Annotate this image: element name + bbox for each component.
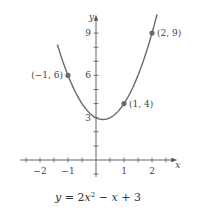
y-axis-label: y	[88, 12, 95, 22]
data-point	[149, 30, 154, 35]
x-tick-label: −1	[61, 166, 74, 176]
data-point-label: (−1, 6)	[31, 70, 63, 80]
data-point	[121, 101, 126, 106]
data-point	[65, 73, 70, 78]
y-tick-label: 9	[85, 28, 91, 38]
y-tick-label: 6	[85, 70, 91, 80]
x-tick-label: 2	[149, 166, 155, 176]
equation-caption: y = 2x2 − x + 3	[54, 191, 141, 204]
data-point-label: (1, 4)	[129, 99, 153, 109]
y-axis-arrow	[94, 15, 98, 21]
data-point-label: (2, 9)	[157, 28, 181, 38]
x-axis-label: x	[175, 160, 180, 170]
x-tick-label: 1	[121, 166, 127, 176]
points: (−1, 6)(1, 4)(2, 9)	[31, 28, 181, 109]
x-tick-label: −2	[33, 166, 46, 176]
parabola-chart: xy −2−112369 (−1, 6)(1, 4)(2, 9) y = 2x2…	[0, 0, 197, 219]
